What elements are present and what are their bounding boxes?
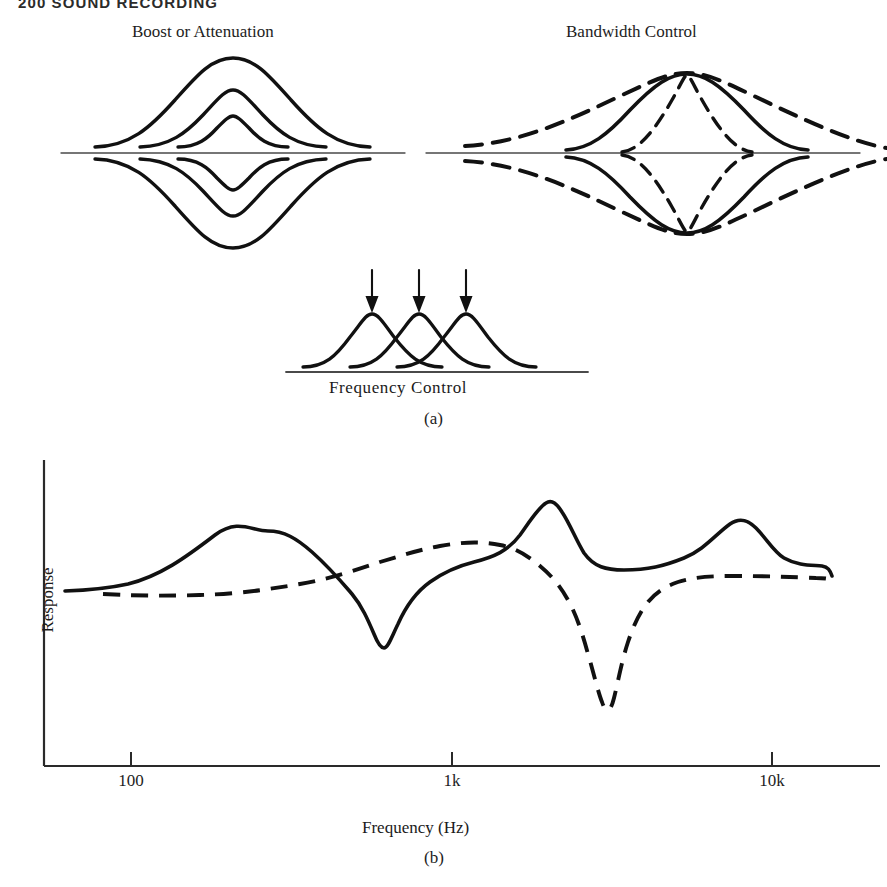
figure-b-vector	[0, 0, 887, 887]
chart-y-axis-label: Response	[38, 540, 58, 660]
chart-series-solid	[65, 502, 832, 648]
figure-page: 200 SOUND RECORDING Boost or Attenuation…	[0, 0, 887, 887]
x-tick-label-10k: 10k	[759, 771, 785, 791]
chart-x-axis-label: Frequency (Hz)	[362, 818, 469, 838]
x-tick-label-100: 100	[118, 771, 144, 791]
chart-axes	[44, 460, 880, 766]
x-tick-label-1k: 1k	[444, 771, 461, 791]
figure-caption-b: (b)	[424, 848, 444, 868]
chart-series-dashed	[103, 542, 832, 710]
